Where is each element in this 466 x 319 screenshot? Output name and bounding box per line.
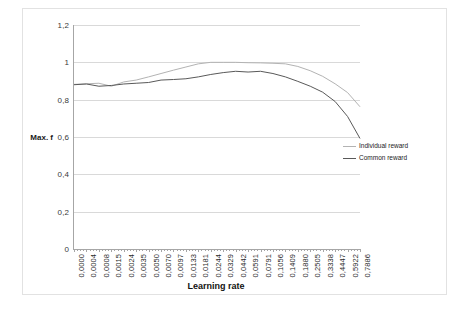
x-axis-minor-tick-mark bbox=[304, 249, 305, 251]
x-axis-minor-tick-mark bbox=[338, 249, 339, 251]
x-axis-minor-tick-mark bbox=[155, 249, 156, 251]
y-axis-tick-label: 0,8 bbox=[58, 95, 69, 104]
x-axis-tick-mark bbox=[360, 249, 361, 252]
legend-swatch bbox=[343, 158, 356, 159]
x-axis-minor-tick-mark bbox=[233, 249, 234, 251]
x-axis-tick-label: 0,5922 bbox=[351, 254, 360, 278]
y-axis-tick-label: 1 bbox=[64, 58, 69, 67]
x-axis-minor-tick-mark bbox=[90, 249, 91, 251]
x-axis-minor-tick-mark bbox=[195, 249, 196, 251]
x-axis-tick-mark bbox=[99, 249, 100, 252]
x-axis-minor-tick-mark bbox=[170, 249, 171, 251]
x-axis-minor-tick-mark bbox=[183, 249, 184, 251]
x-axis-minor-tick-mark bbox=[180, 249, 181, 251]
x-axis-minor-tick-mark bbox=[121, 249, 122, 251]
y-axis-tick-label: 0,4 bbox=[58, 170, 69, 179]
x-axis-tick-label: 0,1409 bbox=[288, 254, 297, 278]
x-axis-tick-label: 0,0791 bbox=[264, 254, 273, 278]
series-lines bbox=[74, 25, 360, 249]
x-axis-tick-label: 0,7886 bbox=[363, 254, 372, 278]
x-axis-minor-tick-mark bbox=[332, 249, 333, 251]
x-axis-minor-tick-mark bbox=[167, 249, 168, 251]
x-axis-tick-mark bbox=[124, 249, 125, 252]
x-axis-minor-tick-mark bbox=[276, 249, 277, 251]
x-axis-minor-tick-mark bbox=[220, 249, 221, 251]
x-axis-tick-mark bbox=[223, 249, 224, 252]
y-axis-tick-label: 0,2 bbox=[58, 207, 69, 216]
x-axis-tick-mark bbox=[111, 249, 112, 252]
legend-item: Common reward bbox=[343, 152, 408, 164]
x-axis-minor-tick-mark bbox=[245, 249, 246, 251]
x-axis-minor-tick-mark bbox=[301, 249, 302, 251]
x-axis-minor-tick-mark bbox=[282, 249, 283, 251]
x-axis-minor-tick-mark bbox=[146, 249, 147, 251]
x-axis-tick-label: 0,0591 bbox=[251, 254, 260, 278]
x-axis-tick-label: 0,0181 bbox=[201, 254, 210, 278]
x-axis-minor-tick-mark bbox=[158, 249, 159, 251]
x-axis-minor-tick-mark bbox=[192, 249, 193, 251]
x-axis-minor-tick-mark bbox=[83, 249, 84, 251]
x-axis-minor-tick-mark bbox=[264, 249, 265, 251]
x-axis-minor-tick-mark bbox=[344, 249, 345, 251]
x-axis-minor-tick-mark bbox=[292, 249, 293, 251]
x-axis-minor-tick-mark bbox=[208, 249, 209, 251]
x-axis-tick-label: 0,0442 bbox=[239, 254, 248, 278]
x-axis-minor-tick-mark bbox=[229, 249, 230, 251]
x-axis-tick-label: 0,0244 bbox=[214, 254, 223, 278]
x-axis-minor-tick-mark bbox=[307, 249, 308, 251]
x-axis-tick-label: 0,0329 bbox=[226, 254, 235, 278]
chart-figure: 00,20,40,60,811,2 Max. f 0,00000,00040,0… bbox=[22, 8, 447, 295]
x-axis-minor-tick-mark bbox=[341, 249, 342, 251]
x-axis-minor-tick-mark bbox=[130, 249, 131, 251]
y-axis-tick-label: 0 bbox=[64, 245, 69, 254]
x-axis-minor-tick-mark bbox=[205, 249, 206, 251]
legend-label: Individual reward bbox=[359, 140, 408, 152]
x-axis-tick-mark bbox=[149, 249, 150, 252]
x-axis-tick-label: 0,0004 bbox=[89, 254, 98, 278]
x-axis-minor-tick-mark bbox=[214, 249, 215, 251]
x-axis-minor-tick-mark bbox=[102, 249, 103, 251]
x-axis-tick-mark bbox=[161, 249, 162, 252]
x-axis-minor-tick-mark bbox=[251, 249, 252, 251]
x-axis-tick-label: 0,4447 bbox=[338, 254, 347, 278]
x-axis-minor-tick-mark bbox=[320, 249, 321, 251]
x-axis-tick-label: 0,0133 bbox=[189, 254, 198, 278]
x-axis-minor-tick-mark bbox=[164, 249, 165, 251]
x-axis-minor-tick-mark bbox=[351, 249, 352, 251]
x-axis-minor-tick-mark bbox=[329, 249, 330, 251]
x-axis-minor-tick-mark bbox=[217, 249, 218, 251]
x-axis-tick-mark bbox=[348, 249, 349, 252]
x-axis-tick-mark bbox=[248, 249, 249, 252]
x-axis-minor-tick-mark bbox=[242, 249, 243, 251]
x-axis-tick-label: 0,0015 bbox=[114, 254, 123, 278]
x-axis-tick-mark bbox=[86, 249, 87, 252]
x-axis-tick-mark bbox=[211, 249, 212, 252]
chart-legend: Individual rewardCommon reward bbox=[343, 140, 408, 164]
x-axis-tick-label: 0,0097 bbox=[176, 254, 185, 278]
legend-swatch bbox=[343, 146, 356, 147]
x-axis-tick-label: 0,0050 bbox=[152, 254, 161, 278]
x-axis-tick-label: 0,1880 bbox=[301, 254, 310, 278]
x-axis-minor-tick-mark bbox=[316, 249, 317, 251]
x-axis-tick-mark bbox=[136, 249, 137, 252]
x-axis-minor-tick-mark bbox=[80, 249, 81, 251]
x-axis-minor-tick-mark bbox=[142, 249, 143, 251]
x-axis-tick-mark bbox=[173, 249, 174, 252]
x-axis-tick-mark bbox=[198, 249, 199, 252]
x-axis-tick-mark bbox=[298, 249, 299, 252]
x-axis-tick-mark bbox=[285, 249, 286, 252]
x-axis-minor-tick-mark bbox=[357, 249, 358, 251]
x-axis-tick-mark bbox=[261, 249, 262, 252]
x-axis-tick-label: 0,0008 bbox=[102, 254, 111, 278]
x-axis-minor-tick-mark bbox=[279, 249, 280, 251]
y-axis-title: Max. f bbox=[30, 133, 53, 142]
y-axis-tick-label: 1,2 bbox=[58, 21, 69, 30]
x-axis-minor-tick-mark bbox=[127, 249, 128, 251]
x-axis-tick-label: 0,1056 bbox=[276, 254, 285, 278]
x-axis-tick-mark bbox=[335, 249, 336, 252]
x-axis-tick-label: 0,0070 bbox=[164, 254, 173, 278]
x-axis-minor-tick-mark bbox=[139, 249, 140, 251]
x-axis-minor-tick-mark bbox=[105, 249, 106, 251]
x-axis-minor-tick-mark bbox=[289, 249, 290, 251]
x-axis-minor-tick-mark bbox=[326, 249, 327, 251]
